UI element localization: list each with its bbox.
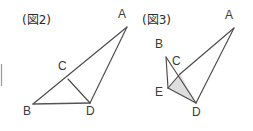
edge-ca — [180, 28, 234, 74]
figure-3-label-e: E — [155, 86, 163, 98]
edge-ad — [90, 27, 127, 103]
figure-3-label-a: A — [225, 9, 233, 21]
edge-bd — [33, 103, 90, 104]
figure-2-label-d: D — [86, 105, 95, 117]
figure-2-geometry — [33, 27, 127, 104]
figure-2-caption: (図2) — [22, 10, 51, 27]
figure-3-label-c: C — [172, 55, 181, 67]
edge-be — [166, 57, 168, 88]
edge-ad — [196, 28, 234, 103]
shaded-triangle-ecd — [168, 74, 196, 103]
figure-2-label-c: C — [58, 60, 67, 72]
edge-cd — [68, 79, 90, 103]
figure-2-label-a: A — [118, 8, 126, 20]
figure-3-label-b: B — [155, 38, 163, 50]
figure-panel: (図2) (図3) A B C D A B C D E — [0, 0, 253, 131]
figure-3-label-d: D — [192, 106, 201, 118]
figure-2-label-b: B — [23, 105, 31, 117]
figure-3-caption: (図3) — [142, 10, 171, 27]
